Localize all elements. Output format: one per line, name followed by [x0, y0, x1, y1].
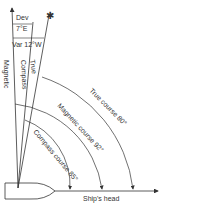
var-label: Var 12°W: [12, 41, 42, 48]
ships-head-label: Ship's head: [83, 195, 119, 203]
magnetic-line: [12, 8, 18, 188]
true-label: True: [29, 59, 38, 74]
compass-label: Compass: [19, 60, 29, 90]
ship-outline: [5, 183, 55, 199]
dev-label: Dev: [16, 14, 29, 21]
magnetic-label: Magnetic: [2, 60, 10, 89]
true-course-label: True course 80°: [88, 87, 128, 127]
compass-course-diagram: ✱ Dev 7°E Var 12°W Magnetic Compass True…: [0, 0, 212, 203]
compass-course-arc: [25, 120, 70, 189]
true-north-star-icon: ✱: [46, 10, 54, 21]
compass-course-label: Compass course 85°: [31, 128, 79, 183]
dev-value: 7°E: [16, 25, 28, 32]
magnetic-course-label: Magnetic course 92°: [56, 102, 106, 154]
